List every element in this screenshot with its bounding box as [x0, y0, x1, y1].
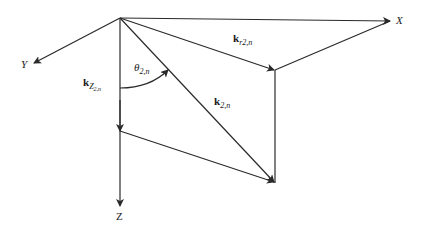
- y-axis-label: Y: [21, 59, 27, 70]
- x-axis-label: X: [396, 15, 403, 26]
- kr-label: kr2,n: [233, 33, 252, 47]
- y-axis: [34, 18, 120, 63]
- k-label: k2,n: [214, 96, 230, 110]
- kz-label: kZ2,n: [83, 77, 101, 92]
- x-axis: [120, 18, 390, 21]
- kr-projection-line: [275, 21, 390, 70]
- kz-to-k-line: [120, 131, 274, 182]
- theta-label: θ2,n: [134, 62, 149, 76]
- z-axis-label: Z: [116, 211, 123, 222]
- vector-diagram: [0, 0, 425, 230]
